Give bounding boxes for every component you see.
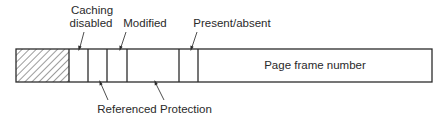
- modified-label: Modified: [123, 17, 166, 29]
- arrow-modified: [119, 32, 126, 51]
- caching-disabled-label-line1: Caching: [71, 4, 113, 16]
- arrow-caching-disabled: [78, 32, 84, 51]
- page-frame-number-label: Page frame number: [264, 59, 366, 71]
- protection-label: Protection: [160, 103, 212, 115]
- present-absent-label: Present/absent: [193, 17, 271, 29]
- arrow-referenced: [99, 80, 108, 100]
- arrow-protection: [154, 80, 164, 100]
- arrow-present-absent: [190, 32, 197, 51]
- reserved-field-hatched: [16, 49, 69, 82]
- caching-disabled-label-line2: disabled: [70, 17, 113, 29]
- entry-outline: [16, 49, 432, 82]
- page-table-entry-diagram: Caching disabled Modified Present/absent…: [0, 0, 447, 122]
- referenced-label: Referenced: [97, 103, 156, 115]
